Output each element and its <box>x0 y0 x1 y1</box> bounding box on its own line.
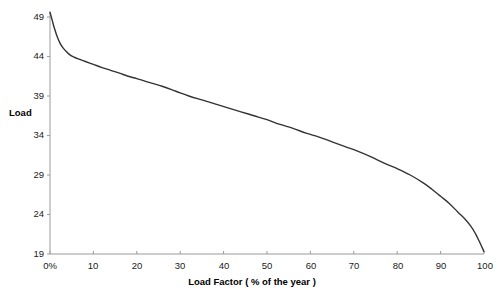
y-tick-label-24: 24 <box>26 209 44 219</box>
y-tick-label-29: 29 <box>26 170 44 180</box>
x-tick-label-20: 20 <box>123 261 151 271</box>
y-tick-label-39: 39 <box>26 91 44 101</box>
y-tick-label-49: 49 <box>26 12 44 22</box>
y-axis-title: Load <box>9 108 32 118</box>
y-tick-label-19: 19 <box>26 249 44 259</box>
x-axis-title: Load Factor ( % of the year ) <box>0 277 504 287</box>
chart-plot-area <box>0 0 504 299</box>
x-tick-label-70: 70 <box>340 261 368 271</box>
x-tick-label-80: 80 <box>384 261 412 271</box>
y-tick-label-34: 34 <box>26 130 44 140</box>
x-tick-label-100: 100 <box>471 261 499 271</box>
chart-axes <box>50 12 484 254</box>
y-tick-label-44: 44 <box>26 51 44 61</box>
x-tick-label-60: 60 <box>297 261 325 271</box>
x-tick-label-0: 0% <box>36 261 64 271</box>
load-curve-line <box>50 12 484 251</box>
load-duration-chart: 49 44 39 34 29 24 19 0% 10 20 30 40 50 6… <box>0 0 504 299</box>
x-tick-label-40: 40 <box>210 261 238 271</box>
x-tick-label-90: 90 <box>427 261 455 271</box>
x-tick-label-10: 10 <box>79 261 107 271</box>
x-tick-label-50: 50 <box>253 261 281 271</box>
x-tick-label-30: 30 <box>166 261 194 271</box>
